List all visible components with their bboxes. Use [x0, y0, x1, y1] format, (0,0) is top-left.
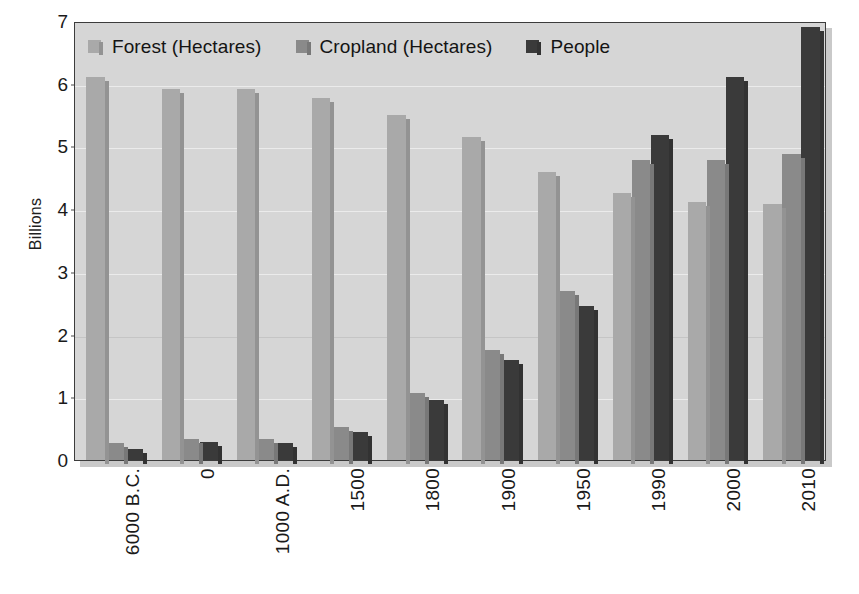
plot-area: [74, 22, 826, 461]
bar-group: [462, 23, 519, 460]
bar-side: [293, 447, 297, 464]
bar-face: [688, 202, 707, 460]
bar-group: [162, 23, 219, 460]
x-tick-label: 1990: [648, 468, 670, 511]
legend-label: Forest (Hectares): [112, 36, 262, 58]
y-tick-label: 3: [57, 262, 68, 284]
bar-side: [406, 119, 410, 464]
bar-side: [650, 164, 654, 464]
bar-face: [387, 115, 406, 460]
legend-label: People: [550, 36, 610, 58]
y-tick-label: 4: [57, 199, 68, 221]
bar-face: [462, 137, 481, 460]
y-tick-label: 1: [57, 387, 68, 409]
y-tick-label: 0: [57, 450, 68, 472]
legend-swatch-icon: [296, 40, 311, 55]
chart-legend: Forest (Hectares)Cropland (Hectares)Peop…: [88, 36, 644, 58]
bar-side: [180, 93, 184, 464]
bar-side: [575, 295, 579, 464]
bar-group: [688, 23, 745, 460]
bar-side: [519, 364, 523, 464]
legend-label: Cropland (Hectares): [320, 36, 493, 58]
bar-side: [425, 397, 429, 464]
bar[interactable]: [86, 77, 105, 460]
bar[interactable]: [688, 202, 707, 460]
x-tick-label: 2000: [723, 468, 745, 511]
chart-figure: Billions 01234567 Forest (Hectares)Cropl…: [0, 0, 859, 594]
x-tick-label: 1500: [347, 468, 369, 511]
legend-item[interactable]: Forest (Hectares): [88, 36, 262, 58]
bar-side: [444, 404, 448, 464]
bar-side: [199, 443, 203, 464]
legend-swatch-icon: [88, 40, 103, 55]
legend-swatch-side: [307, 42, 311, 55]
bar-side: [744, 81, 748, 464]
bar-face: [162, 89, 181, 460]
bar[interactable]: [538, 172, 557, 460]
bar-group: [86, 23, 143, 460]
y-tick-label: 7: [57, 11, 68, 33]
legend-item[interactable]: Cropland (Hectares): [296, 36, 493, 58]
bar[interactable]: [387, 115, 406, 460]
bar-group: [538, 23, 595, 460]
bar-side: [330, 102, 334, 464]
bar[interactable]: [763, 204, 782, 460]
bar[interactable]: [162, 89, 181, 460]
legend-item[interactable]: People: [526, 36, 610, 58]
bar-side: [725, 164, 729, 464]
x-tick-label: 1950: [573, 468, 595, 511]
bar-side: [255, 93, 259, 464]
bar-side: [556, 176, 560, 464]
x-tick-label: 2010: [798, 468, 820, 511]
legend-swatch-icon: [526, 40, 541, 55]
bar-side: [801, 158, 805, 464]
legend-swatch-side: [537, 42, 541, 55]
x-axis-tick-labels: 6000 B.C.01000 A.D.150018001900195019902…: [74, 468, 826, 588]
bar-side: [349, 431, 353, 464]
x-tick-label: 0: [197, 468, 219, 479]
y-tick-label: 2: [57, 325, 68, 347]
bar-side: [105, 81, 109, 464]
bar-side: [631, 197, 635, 464]
bar-side: [500, 354, 504, 464]
bar-side: [820, 31, 824, 464]
x-tick-label: 1000 A.D.: [272, 468, 294, 554]
bar-side: [594, 310, 598, 464]
bar-face: [613, 193, 632, 460]
y-tick-label: 6: [57, 74, 68, 96]
bar-side: [218, 446, 222, 464]
legend-swatch-side: [99, 42, 103, 55]
bar-group: [613, 23, 670, 460]
bar[interactable]: [613, 193, 632, 460]
x-tick-label: 1800: [422, 468, 444, 511]
bar-face: [237, 89, 256, 460]
bar-side: [368, 436, 372, 464]
bar-group: [763, 23, 820, 460]
x-tick-label: 1900: [498, 468, 520, 511]
x-tick-label: 6000 B.C.: [122, 468, 144, 555]
bar-face: [538, 172, 557, 460]
bar-side: [782, 208, 786, 464]
bar-group: [387, 23, 444, 460]
bar-groups: [75, 23, 825, 460]
bar-side: [669, 139, 673, 464]
y-tick-label: 5: [57, 136, 68, 158]
bar-side: [274, 443, 278, 464]
bar-group: [237, 23, 294, 460]
bar-face: [312, 98, 331, 460]
bar-face: [86, 77, 105, 460]
bar[interactable]: [312, 98, 331, 460]
bar-group: [312, 23, 369, 460]
bar-side: [124, 447, 128, 464]
bar[interactable]: [462, 137, 481, 460]
bar-side: [143, 453, 147, 464]
bar[interactable]: [237, 89, 256, 460]
bar-side: [481, 141, 485, 464]
bar-side: [706, 206, 710, 464]
y-axis-tick-labels: 01234567: [38, 22, 68, 461]
bar-face: [763, 204, 782, 460]
